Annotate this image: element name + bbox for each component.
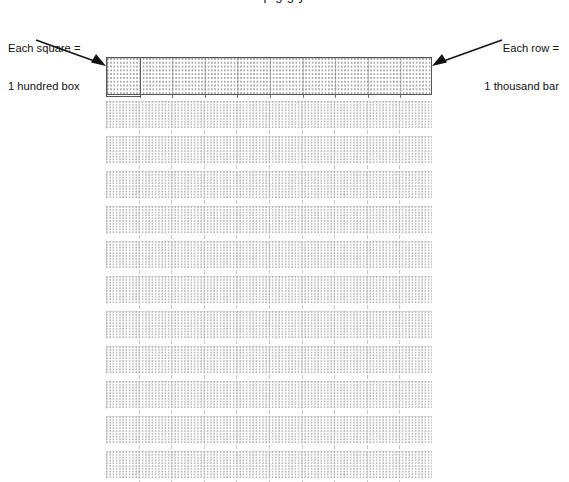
thousand-bar[interactable] [106, 101, 432, 129]
thousand-bar[interactable] [106, 206, 432, 234]
thousand-bar[interactable] [106, 276, 432, 304]
annotation-thousand-bar-line2: 1 thousand bar [484, 80, 559, 93]
hundred-box-tick [139, 340, 140, 344]
hundred-box-tick [171, 200, 172, 204]
hundred-box-tick [367, 340, 368, 344]
hundred-box-tick [399, 410, 400, 414]
thousand-bar-gap-ticks [106, 165, 432, 169]
hundred-box-tick [171, 305, 172, 309]
thousand-bar-gap-ticks [106, 375, 432, 379]
thousand-bar[interactable] [106, 171, 432, 199]
thousand-bar[interactable] [106, 136, 432, 164]
hundred-box-tick [302, 340, 303, 344]
hundred-box-tick [367, 445, 368, 449]
hundred-box-tick [139, 445, 140, 449]
hundred-box-tick [204, 375, 205, 379]
hundred-box-tick [399, 130, 400, 134]
hundred-box-tick [236, 130, 237, 134]
thousand-bar[interactable] [106, 381, 432, 409]
hundred-box-tick [139, 305, 140, 309]
hundred-box-tick [367, 235, 368, 239]
hundred-box-tick [302, 270, 303, 274]
hundred-box-tick [269, 130, 270, 134]
hundred-box-tick [367, 270, 368, 274]
hundred-box-tick [367, 130, 368, 134]
hundred-box-tick [204, 340, 205, 344]
hundred-box-tick [140, 95, 141, 98]
hundred-box-tick [270, 95, 271, 98]
hundred-box-tick [335, 95, 336, 98]
hundred-box-tick [171, 235, 172, 239]
hundred-box-tick [269, 375, 270, 379]
hundred-box-tick [302, 200, 303, 204]
hundred-box-tick [302, 375, 303, 379]
hundred-box-tick [171, 130, 172, 134]
annotation-hundred-box-line2: 1 hundred box [8, 80, 80, 93]
hundred-box-tick [399, 375, 400, 379]
hundred-box-tick [236, 305, 237, 309]
hundred-box-tick [204, 165, 205, 169]
hundred-box-tick [399, 305, 400, 309]
thousand-bar[interactable] [106, 451, 432, 479]
hundred-box-tick [204, 130, 205, 134]
hundred-box-tick [237, 95, 238, 98]
hundred-box-tick [236, 410, 237, 414]
hundred-box-tick [204, 305, 205, 309]
hundred-box-highlighted[interactable] [106, 57, 141, 97]
hundred-box-tick [302, 235, 303, 239]
hundred-box-tick [302, 305, 303, 309]
hundred-box-tick [302, 410, 303, 414]
million-dot-field [106, 57, 432, 482]
arrow-down-left-icon [424, 38, 504, 70]
thousand-bar[interactable] [106, 346, 432, 374]
hundred-box-tick [334, 445, 335, 449]
hundred-box-tick [204, 235, 205, 239]
thousand-bar-highlighted[interactable] [106, 57, 432, 95]
hundred-box-tick [269, 165, 270, 169]
thousand-bar-gap-ticks [106, 445, 432, 449]
hundred-box-tick [334, 340, 335, 344]
hundred-box-tick [139, 165, 140, 169]
hundred-box-tick [400, 95, 401, 98]
hundred-box-tick [334, 130, 335, 134]
hundred-box-tick [399, 340, 400, 344]
thousand-bar-gap-ticks [106, 130, 432, 134]
hundred-box-tick [171, 270, 172, 274]
hundred-box-tick [399, 165, 400, 169]
hundred-box-tick [269, 305, 270, 309]
hundred-box-tick [172, 95, 173, 98]
hundred-box-tick [269, 200, 270, 204]
hundred-box-tick [367, 165, 368, 169]
hundred-box-tick [367, 375, 368, 379]
hundred-box-tick [367, 305, 368, 309]
thousand-bar-gap-ticks [106, 305, 432, 309]
thousand-bar-gap-ticks [106, 410, 432, 414]
thousand-bar-gap-ticks [106, 270, 432, 274]
thousand-bar-gap-ticks [106, 340, 432, 344]
hundred-box-tick [269, 410, 270, 414]
hundred-box-tick [139, 200, 140, 204]
tick-row-bottom [107, 95, 432, 98]
hundred-box-tick [171, 375, 172, 379]
hundred-box-tick [334, 410, 335, 414]
hundred-box-tick [171, 445, 172, 449]
thousand-bar-stack [106, 101, 432, 482]
thousand-bar[interactable] [106, 311, 432, 339]
thousand-bar[interactable] [106, 241, 432, 269]
hundred-box-tick [334, 270, 335, 274]
hundred-box-tick [236, 375, 237, 379]
hundred-box-tick [204, 200, 205, 204]
hundred-box-tick [171, 340, 172, 344]
hundred-box-tick [334, 305, 335, 309]
hundred-box-tick [139, 270, 140, 274]
thousand-bar[interactable] [106, 416, 432, 444]
hundred-box-tick [171, 165, 172, 169]
hundred-box-tick [399, 200, 400, 204]
hundred-box-tick [334, 235, 335, 239]
hundred-box-tick [139, 130, 140, 134]
hundred-box-tick [367, 410, 368, 414]
hundred-box-tick [236, 445, 237, 449]
hundred-box-tick [302, 165, 303, 169]
hundred-box-tick [334, 200, 335, 204]
thousand-bar-gap-ticks [106, 200, 432, 204]
